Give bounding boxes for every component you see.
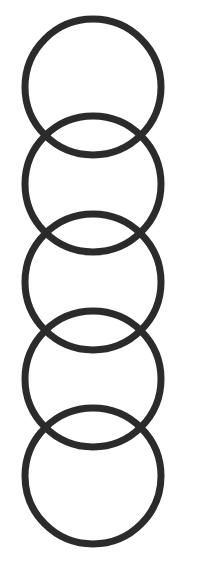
rings-group: [25, 19, 161, 544]
ring-5: [25, 408, 161, 544]
ring-chain-diagram: [0, 0, 211, 573]
rings-svg: [0, 0, 211, 573]
